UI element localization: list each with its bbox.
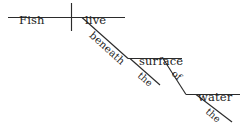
stroke-group [8,3,240,122]
sentence-diagram: Fishlivebeneathsurfacetheofwaterthe [0,0,243,123]
diagram-strokes-layer [0,0,243,123]
diagram-stroke-prep-slant-beneath [82,18,128,59]
diagram-stroke-article-slant-the-1 [130,59,160,86]
diagram-stroke-prep-slant-of [163,59,186,95]
diagram-stroke-article-slant-the-2 [196,95,232,123]
